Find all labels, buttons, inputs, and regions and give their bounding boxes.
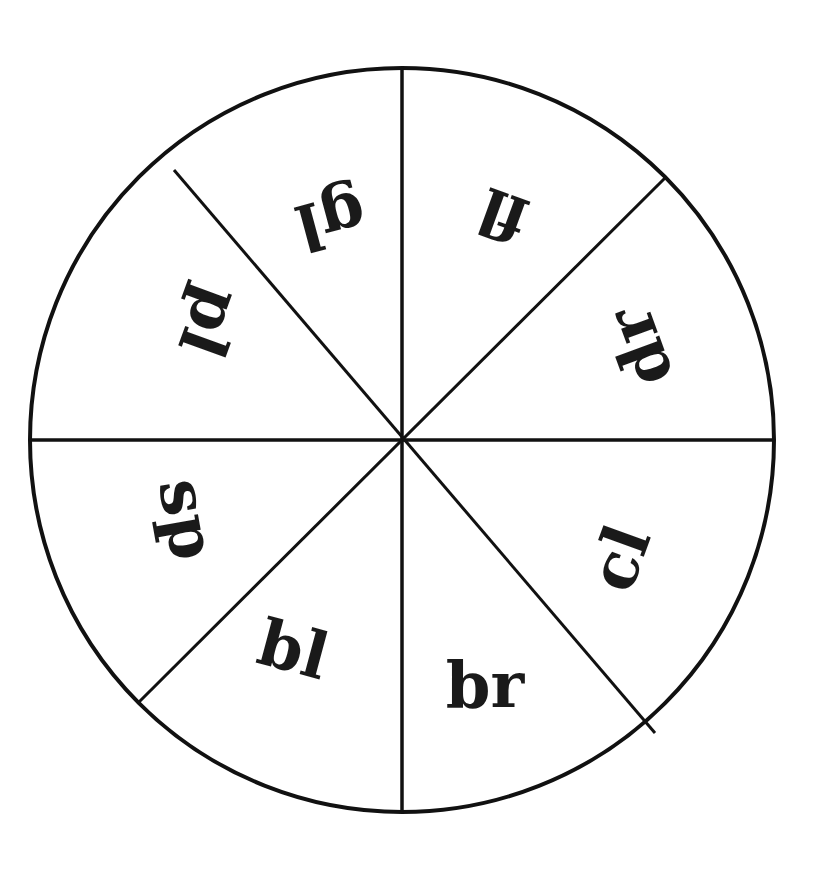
divider-diagonal-2 — [174, 170, 655, 733]
segment-label-sp: sp — [144, 473, 232, 566]
segment-label-gl: gl — [288, 176, 374, 266]
segment-label-bl: bl — [250, 604, 336, 694]
blend-wheel: fl dr cl br bl sp pl gl — [0, 0, 825, 880]
segment-label-cl: cl — [573, 515, 665, 600]
segment-label-dr: dr — [590, 296, 688, 397]
segment-label-fl: fl — [468, 172, 537, 258]
segment-label-pl: pl — [164, 277, 258, 368]
segment-label-br: br — [446, 647, 526, 722]
